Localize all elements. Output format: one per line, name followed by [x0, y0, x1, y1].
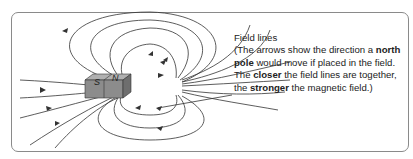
- annotation-title: Field lines: [234, 32, 409, 44]
- annotation-body: (The arrows show the direction a north p…: [234, 44, 409, 94]
- north-pole-label: N: [112, 73, 119, 83]
- bar-magnet: [85, 74, 131, 98]
- south-pole-label: S: [94, 77, 100, 87]
- field-lines-annotation: Field lines (The arrows show the directi…: [234, 32, 409, 94]
- pointer-line: [158, 95, 232, 108]
